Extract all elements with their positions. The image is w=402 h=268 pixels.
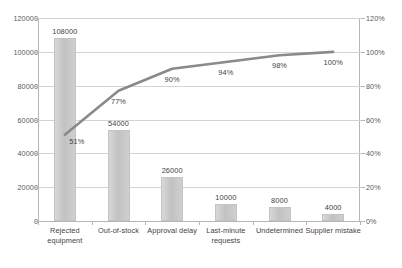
percent-axis-tick-label: 20%	[366, 183, 381, 192]
percent-axis-tick-mark	[361, 52, 365, 53]
percent-axis-tick-mark	[361, 221, 365, 222]
bar	[322, 214, 344, 221]
category-label-line: Supplier mistake	[305, 226, 360, 236]
percent-axis-tick-label: 120%	[366, 14, 385, 23]
category-axis-tick-mark	[145, 221, 146, 225]
bar-value-label: 10000	[215, 193, 236, 202]
category-label: Rejectedequipment	[47, 226, 82, 245]
bar-value-label: 108000	[52, 27, 77, 36]
category-label: Undetermined	[256, 226, 303, 236]
category-label-line: Out-of-stock	[98, 226, 139, 236]
category-label-line: Undetermined	[256, 226, 303, 236]
pareto-chart: 020000400006000080000100000120000 0%20%4…	[0, 0, 402, 268]
category-label: Approval delay	[147, 226, 197, 236]
gridline	[38, 187, 361, 188]
cumulative-percent-label: 94%	[218, 68, 233, 77]
value-axis-tick-mark	[34, 120, 38, 121]
bar	[54, 38, 76, 221]
bar-value-label: 26000	[162, 166, 183, 175]
bar-value-label: 8000	[271, 196, 288, 205]
bar	[215, 204, 237, 221]
cumulative-percent-label: 51%	[69, 137, 84, 146]
category-axis-tick-mark	[360, 221, 361, 225]
percent-axis-tick-label: 100%	[366, 47, 385, 56]
percent-axis-tick-mark	[361, 153, 365, 154]
category-axis-tick-mark	[199, 221, 200, 225]
value-axis-tick-mark	[34, 18, 38, 19]
bar	[269, 207, 291, 221]
category-axis-tick-mark	[253, 221, 254, 225]
gridline	[38, 120, 361, 121]
percent-axis-tick-mark	[361, 18, 365, 19]
value-axis-tick-mark	[34, 52, 38, 53]
category-axis-tick-mark	[38, 221, 39, 225]
gridline	[38, 86, 361, 87]
value-axis-tick-mark	[34, 187, 38, 188]
cumulative-percent-label: 90%	[165, 75, 180, 84]
bar	[161, 177, 183, 221]
gridline	[38, 153, 361, 154]
cumulative-percent-label: 77%	[111, 97, 126, 106]
gridline	[38, 18, 361, 19]
bar-value-label: 54000	[108, 119, 129, 128]
category-label: Last-minuterequests	[206, 226, 245, 245]
percent-axis-tick-mark	[361, 187, 365, 188]
bar	[108, 130, 130, 221]
percent-axis-tick-label: 0%	[366, 217, 377, 226]
cumulative-percent-label: 100%	[324, 58, 343, 67]
percent-axis-tick-label: 80%	[366, 81, 381, 90]
category-label-line: Approval delay	[147, 226, 197, 236]
category-label: Out-of-stock	[98, 226, 139, 236]
percent-axis-tick-mark	[361, 120, 365, 121]
category-label-line: equipment	[47, 236, 82, 246]
gridline	[38, 52, 361, 53]
category-label-line: requests	[206, 236, 245, 246]
percent-axis-tick-mark	[361, 86, 365, 87]
value-axis-tick-mark	[34, 86, 38, 87]
cumulative-percent-label: 98%	[272, 61, 287, 70]
category-axis-tick-mark	[306, 221, 307, 225]
category-label-line: Rejected	[47, 226, 82, 236]
percent-axis-tick-label: 60%	[366, 115, 381, 124]
percent-axis-tick-label: 40%	[366, 149, 381, 158]
value-axis-tick-mark	[34, 153, 38, 154]
category-axis-tick-mark	[92, 221, 93, 225]
category-label-line: Last-minute	[206, 226, 245, 236]
bar-value-label: 4000	[325, 203, 342, 212]
category-label: Supplier mistake	[305, 226, 360, 236]
